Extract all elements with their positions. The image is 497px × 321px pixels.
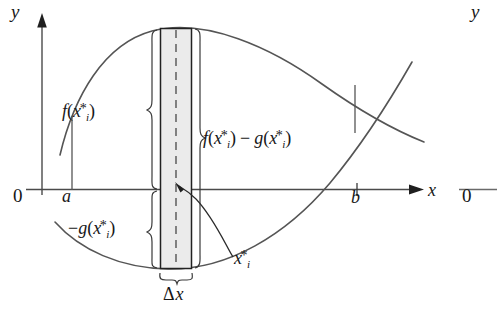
paren-close: ) (109, 218, 115, 238)
label-delta-x: Δx (163, 285, 184, 303)
second-plot-origin-label: 0 (462, 186, 472, 205)
y-axis-label: y (11, 2, 19, 21)
second-plot-y-axis-label: y (471, 2, 479, 21)
label-sample-point-xi-star: x*i (234, 248, 250, 270)
riemann-rectangle (161, 29, 192, 269)
delta-symbol: Δ (163, 284, 175, 304)
brace-f-height (147, 30, 157, 189)
minus-sign: − (68, 218, 78, 238)
label-f-minus-g: f(x*i)−g(x*i) (203, 128, 291, 150)
figure-canvas (0, 0, 497, 321)
brace-delta-x (160, 273, 193, 284)
label-f-of-xi-star: f(x*i) (62, 101, 95, 123)
paren-close-1: ) (230, 128, 236, 148)
minus-sign: − (240, 128, 250, 148)
sub-i: i (247, 258, 250, 270)
area-between-curves-figure: y 0 a b x f(x*i) f(x*i)−g(x*i) −g(x*i) x… (0, 0, 497, 321)
brace-neg-g-depth (147, 191, 157, 268)
var-x: x (176, 284, 184, 304)
x-axis-arrowhead (409, 184, 424, 194)
fn-g: g (254, 128, 263, 148)
y-axis-arrowhead (37, 13, 47, 28)
paren-close-2: ) (285, 128, 291, 148)
origin-label: 0 (13, 186, 23, 205)
lower-bound-label-a: a (62, 187, 71, 205)
paren-close: ) (89, 101, 95, 121)
label-negative-g-of-xi-star: −g(x*i) (68, 218, 115, 240)
fn-g: g (78, 218, 87, 238)
upper-bound-label-b: b (351, 188, 360, 206)
x-axis-label: x (428, 181, 436, 199)
